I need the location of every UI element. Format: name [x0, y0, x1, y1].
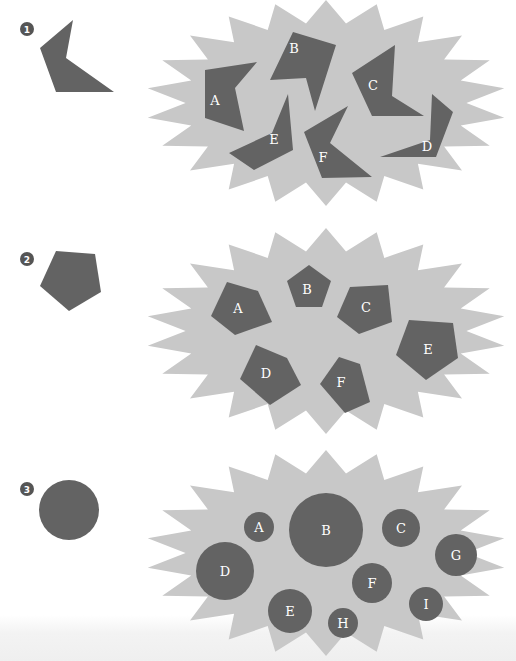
sample-pentagon [40, 251, 101, 311]
piece-label: B [302, 282, 312, 297]
piece-label: C [361, 300, 371, 315]
piece-c: C [382, 509, 420, 547]
panel-3: 3ABCDEFGHI [20, 450, 504, 656]
piece-label: F [367, 576, 376, 591]
piece-label: G [451, 548, 461, 563]
panel-2: 2ABCDFE [20, 228, 504, 434]
piece-label: A [209, 93, 220, 108]
step-number-badge: 3 [20, 482, 34, 496]
piece-a: A [244, 512, 274, 542]
piece-label: F [318, 150, 327, 165]
piece-label: A [253, 520, 264, 535]
piece-label: H [337, 616, 348, 631]
piece-b: B [289, 493, 363, 567]
sample-circle [39, 480, 99, 540]
piece-label: C [368, 78, 378, 93]
step-number-badge: 1 [20, 22, 34, 36]
step-number-badge: 2 [20, 252, 34, 266]
piece-label: C [396, 521, 406, 536]
diagram-canvas: 1ABCDEF2ABCDFE3ABCDEFGHI [0, 0, 516, 661]
diagram-stage: 1ABCDEF2ABCDFE3ABCDEFGHI [0, 0, 516, 661]
piece-d: D [196, 542, 254, 600]
piece-label: D [422, 139, 432, 154]
piece-label: B [289, 41, 299, 56]
piece-i: I [409, 587, 443, 621]
piece-label: D [220, 564, 230, 579]
svg-text:1: 1 [24, 25, 30, 35]
piece-label: D [261, 366, 271, 381]
piece-label: F [336, 375, 345, 390]
piece-f: F [352, 563, 392, 603]
piece-label: E [423, 342, 433, 357]
piece-label: I [423, 597, 428, 612]
panel-1: 1ABCDEF [20, 0, 504, 206]
svg-text:3: 3 [24, 485, 30, 495]
svg-text:2: 2 [24, 255, 30, 265]
piece-h: H [328, 608, 358, 638]
piece-label: B [321, 523, 331, 538]
piece-g: G [435, 534, 477, 576]
piece-label: E [285, 604, 295, 619]
sample-chevron [40, 20, 114, 92]
piece-e: E [268, 589, 312, 633]
piece-label: A [232, 301, 243, 316]
piece-label: E [269, 132, 279, 147]
